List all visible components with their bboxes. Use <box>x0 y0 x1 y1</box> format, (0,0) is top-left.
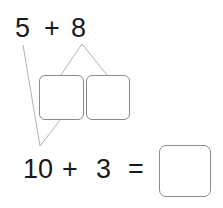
top-first-number: 5 <box>15 15 30 42</box>
line-8-to-right-box <box>82 44 107 75</box>
decomposition-box-left[interactable] <box>39 75 84 120</box>
line-8-to-left-box <box>61 44 82 75</box>
bottom-second-number: 3 <box>96 156 111 183</box>
top-operator: + <box>44 15 60 42</box>
line-5-to-10 <box>23 45 40 146</box>
bottom-first-number: 10 <box>23 156 53 183</box>
equals-sign: = <box>128 156 144 183</box>
decomposition-box-right[interactable] <box>86 75 130 120</box>
top-second-number: 8 <box>71 15 86 42</box>
bottom-operator: + <box>62 156 78 183</box>
answer-box[interactable] <box>159 145 211 197</box>
line-left-box-to-10 <box>40 120 60 146</box>
